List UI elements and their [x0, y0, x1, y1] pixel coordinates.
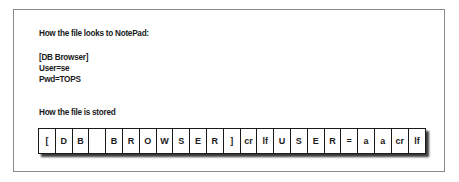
byte-cell: U — [274, 129, 291, 153]
notepad-line-section: [DB Browser] — [39, 51, 88, 62]
byte-cell: lf — [409, 129, 426, 153]
byte-cell: lf — [257, 129, 274, 153]
byte-cell: ] — [224, 129, 241, 153]
byte-cell: a — [358, 129, 375, 153]
byte-cell: cr — [241, 129, 258, 153]
byte-cell: cr — [392, 129, 409, 153]
byte-cell-row: [ D B B R O W S E R ] cr lf U S E R = a … — [38, 128, 426, 154]
byte-cell: = — [341, 129, 358, 153]
stored-heading: How the file is stored — [39, 106, 115, 117]
byte-cell — [89, 129, 106, 153]
byte-cell: R — [207, 129, 224, 153]
notepad-line-pwd: Pwd=TOPS — [39, 73, 81, 84]
notepad-line-user: User=se — [39, 62, 69, 73]
byte-cell: B — [106, 129, 123, 153]
byte-cell: E — [308, 129, 325, 153]
notepad-heading: How the file looks to NotePad: — [39, 27, 149, 38]
byte-cell: R — [325, 129, 342, 153]
byte-cell: B — [73, 129, 90, 153]
byte-cell: W — [157, 129, 174, 153]
byte-cell: E — [190, 129, 207, 153]
byte-cell: O — [140, 129, 157, 153]
byte-cell: [ — [39, 129, 56, 153]
byte-cell: R — [123, 129, 140, 153]
byte-cell: a — [375, 129, 392, 153]
byte-cell: D — [56, 129, 73, 153]
byte-cell: S — [291, 129, 308, 153]
byte-cell: S — [173, 129, 190, 153]
